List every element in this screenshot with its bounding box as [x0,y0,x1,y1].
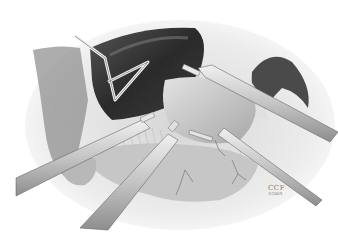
copyright-credit: CCF ©2005 [268,185,285,197]
surgical-illustration [0,0,338,250]
